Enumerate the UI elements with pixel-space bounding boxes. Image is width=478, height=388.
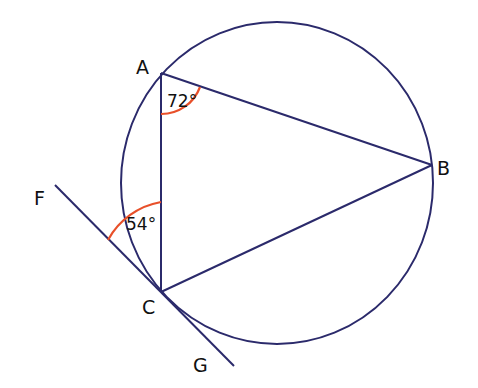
side-ab xyxy=(161,73,432,165)
point-label-a: A xyxy=(136,56,149,78)
point-label-g: G xyxy=(193,354,208,376)
angle-label-c: 54° xyxy=(126,214,156,234)
side-bc xyxy=(161,165,432,292)
point-label-b: B xyxy=(437,157,450,179)
angle-label-a: 72° xyxy=(167,91,197,111)
point-label-c: C xyxy=(142,296,155,318)
tangent-fg xyxy=(55,185,234,366)
circle xyxy=(121,22,433,344)
geometry-diagram: 72° 54° A B C F G xyxy=(0,0,478,388)
point-label-f: F xyxy=(34,187,45,209)
